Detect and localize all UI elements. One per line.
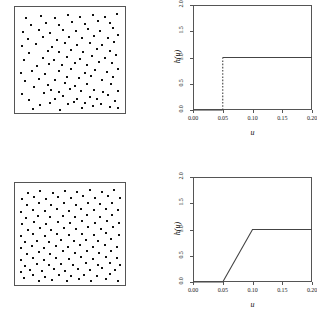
pattern-point [101,79,103,81]
pattern-point [70,49,72,51]
x-tick [253,282,254,285]
pattern-point [73,101,75,103]
x-tick [193,282,194,285]
pattern-point [94,69,96,71]
pattern-point [109,273,111,275]
x-tick [282,282,283,285]
pattern-point [77,268,79,270]
y-tick-label: 0.0 [178,101,184,117]
pattern-point [61,64,63,66]
pattern-point [38,280,40,282]
y-tick [190,84,193,85]
x-tick-label: 0.10 [241,115,265,121]
pattern-point [35,43,37,45]
pattern-point [87,28,89,30]
panel-top-left-point-pattern [14,6,126,114]
pattern-point [63,202,65,204]
pattern-point [111,62,113,64]
pattern-point [76,44,78,46]
pattern-point [49,32,51,34]
pattern-point [101,191,103,193]
y-axis-title-top: h(u) [173,36,182,76]
pattern-point [51,46,53,48]
pattern-point [66,56,68,58]
x-tick-label: 0.00 [181,287,205,293]
x-tick [282,110,283,113]
pattern-point [51,279,53,281]
pattern-point [86,214,88,216]
pattern-point [96,98,98,100]
pattern-point [74,62,76,64]
y-tick-label: 0.0 [178,273,184,289]
pattern-point [86,64,88,66]
pattern-point [57,221,59,223]
pattern-point [67,103,69,105]
pattern-point [85,239,87,241]
x-axis-title-top: u [193,128,312,137]
y-tick [190,110,193,111]
pattern-point [38,29,40,31]
pattern-point [80,208,82,210]
pattern-point [32,233,34,235]
pattern-point [101,44,103,46]
pattern-point [98,61,100,63]
pattern-point [50,89,52,91]
pattern-point [33,196,35,198]
pattern-point [98,252,100,254]
pattern-point [111,202,113,204]
point-pattern-box-top [14,6,126,114]
y-tick [190,203,193,204]
pattern-point [73,240,75,242]
pattern-point [58,70,60,72]
pattern-point [96,275,98,277]
pattern-point [66,76,68,78]
pattern-point [40,15,42,17]
pattern-point [79,58,81,60]
pattern-point [66,280,68,282]
pattern-point [110,238,112,240]
pattern-point [47,50,49,52]
pattern-point [106,220,108,222]
x-tick [312,282,313,285]
pattern-point [44,210,46,212]
pattern-point [49,253,51,255]
pattern-point [69,222,71,224]
pattern-point [32,274,34,276]
pattern-point [109,50,111,52]
x-tick-label: 0.00 [181,115,205,121]
pattern-point [79,16,81,18]
pattern-point [74,216,76,218]
pattern-point [76,98,78,100]
pattern-point [91,55,93,57]
pattern-point [48,63,50,65]
pattern-point [92,246,94,248]
pattern-point [89,269,91,271]
pattern-point [39,190,41,192]
pattern-point [45,223,47,225]
pattern-point [68,234,70,236]
pattern-point [43,92,45,94]
x-tick-label: 0.15 [270,115,294,121]
pattern-point [100,228,102,230]
pattern-point [54,79,56,81]
pattern-point [64,42,66,44]
pattern-point [28,52,30,54]
pattern-point [117,209,119,211]
pattern-point [32,209,34,211]
pattern-point [48,264,50,266]
pattern-point [106,71,108,73]
pattern-point [64,82,66,84]
pattern-point [70,197,72,199]
pattern-point [87,202,89,204]
x-tick [223,110,224,113]
pattern-point [99,216,101,218]
pattern-point [44,235,46,237]
pattern-point [56,39,58,41]
figure-canvas: 0.000.050.100.150.20 0.00.51.01.52.0 u h… [0,0,317,322]
pattern-point [23,277,25,279]
pattern-point [116,257,118,259]
pattern-point [80,90,82,92]
pattern-point [101,267,103,269]
pattern-point [64,190,66,192]
pattern-point [38,251,40,253]
